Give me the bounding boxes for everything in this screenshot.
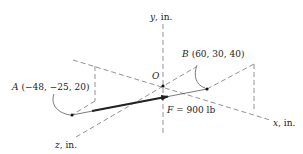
origin-label: O bbox=[152, 71, 160, 81]
origin-point bbox=[161, 84, 164, 87]
y-axis-label: y, in. bbox=[149, 12, 172, 22]
point-a-dot bbox=[70, 113, 73, 116]
construction-line-b-diagonal bbox=[207, 64, 254, 89]
x-axis-label: x, in. bbox=[273, 118, 295, 128]
leader-a bbox=[53, 94, 70, 115]
force-arrow bbox=[92, 97, 168, 112]
force-diagram: y, in. O B(60, 30, 40) A(−48, −25, 20) F… bbox=[0, 0, 303, 154]
force-label: F = 900 lb bbox=[166, 105, 215, 115]
point-a-label: A(−48, −25, 20) bbox=[11, 82, 89, 92]
z-axis-label: z, in. bbox=[54, 140, 77, 150]
point-b-label: B(60, 30, 40) bbox=[181, 49, 244, 59]
point-b-dot bbox=[205, 87, 208, 90]
leader-b bbox=[195, 65, 205, 88]
